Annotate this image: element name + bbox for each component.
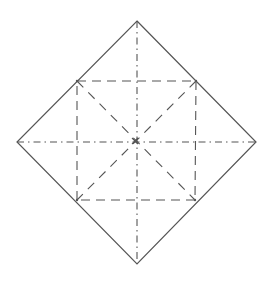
corner-point — [194, 199, 196, 201]
corner-point — [76, 80, 78, 82]
corner-point — [195, 80, 197, 82]
crease-pattern-svg — [0, 0, 272, 287]
valley-fold-square-edge — [195, 81, 196, 200]
crease-pattern-diagram — [0, 0, 272, 287]
corner-point — [76, 199, 78, 201]
